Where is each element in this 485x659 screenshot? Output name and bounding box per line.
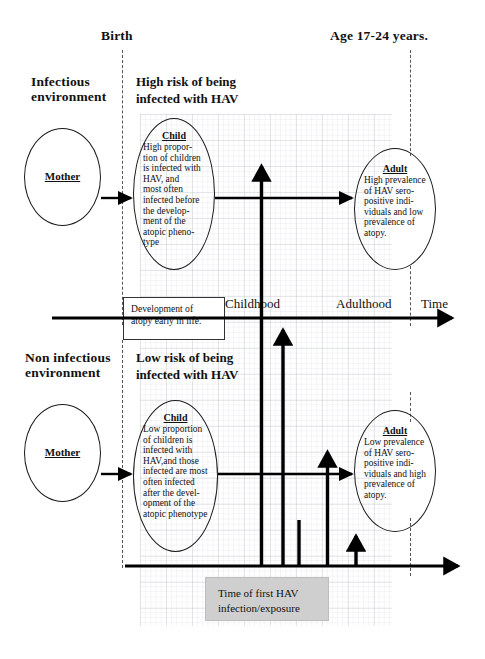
label-childhood: Childhood — [225, 296, 280, 312]
age-guide-line-mid — [410, 266, 411, 326]
ellipse-mother-bottom-label: Mother — [25, 446, 100, 458]
callout-first-hav-infection: Time of first HAV infection/exposure — [205, 577, 329, 621]
label-high-risk-hav: High risk of being infected with HAV — [136, 73, 316, 107]
diagram-canvas: Birth Age 17-24 years. Infectious enviro… — [0, 0, 485, 659]
ellipse-adult-bottom-body: Low prevalence of HAV sero- positive ind… — [364, 437, 426, 500]
ellipse-child-top: Child High propor- tion of children is i… — [133, 118, 215, 270]
ellipse-child-top-body: High propor- tion of children is infecte… — [143, 142, 201, 247]
ellipse-child-top-text: Child High propor- tion of children is i… — [134, 131, 214, 248]
label-low-risk-hav: Low risk of being infected with HAV — [136, 349, 316, 383]
ellipse-child-bottom-text: Child Low proportion of children is infe… — [134, 413, 217, 519]
ellipse-adult-top-text: Adult High prevalence of HAV sero- posit… — [355, 164, 435, 239]
ellipse-adult-top: Adult High prevalence of HAV sero- posit… — [354, 148, 436, 270]
header-age: Age 17-24 years. — [330, 28, 428, 43]
label-infectious-environment: Infectious environment — [31, 74, 141, 104]
ellipse-child-top-title: Child — [143, 131, 205, 142]
ellipse-mother-top: Mother — [24, 128, 101, 226]
label-adulthood: Adulthood — [336, 296, 392, 312]
label-non-infectious-environment: Non infectious environment — [25, 350, 150, 380]
callout-atopy-development: Development of atopy early in life. — [123, 297, 225, 340]
ellipse-adult-bottom-text: Adult Low prevalence of HAV sero- positi… — [355, 426, 435, 501]
ellipse-child-bottom: Child Low proportion of children is infe… — [133, 400, 218, 552]
header-birth: Birth — [101, 28, 133, 43]
ellipse-adult-top-body: High prevalence of HAV sero- positive in… — [364, 175, 426, 238]
label-time: Time — [421, 296, 448, 312]
ellipse-mother-bottom: Mother — [24, 404, 101, 502]
age-guide-line — [410, 50, 411, 156]
ellipse-child-bottom-body: Low proportion of children is infected w… — [143, 424, 208, 519]
ellipse-mother-top-label: Mother — [25, 170, 100, 182]
ellipse-adult-top-title: Adult — [364, 164, 426, 175]
ellipse-adult-bottom: Adult Low prevalence of HAV sero- positi… — [354, 410, 436, 532]
ellipse-child-bottom-title: Child — [143, 413, 208, 424]
ellipse-adult-bottom-title: Adult — [364, 426, 426, 437]
